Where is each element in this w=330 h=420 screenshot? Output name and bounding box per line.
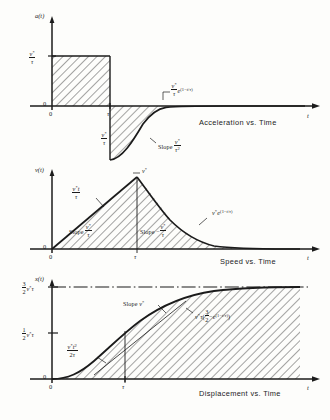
annotation-peak-value: v* (142, 168, 147, 175)
x-axis-name-displacement: t (307, 384, 309, 391)
x-tick-tau-acceleration: τ (107, 110, 109, 117)
annotation-pulse-level: v*τ (29, 50, 35, 65)
y-axis-name-acceleration: a(t) (35, 12, 44, 19)
x-tick-zero-acceleration: 0 (49, 110, 52, 117)
y-axis-arrow (50, 169, 55, 176)
annotation-decay-equation-speed: v*e(1−t/τ) (212, 210, 233, 217)
panel-speed: v(t) 0 0 τ t v* v*tτ v*e(1−t/τ) Slope v*… (0, 165, 330, 275)
x-axis-name-acceleration: t (307, 112, 309, 119)
slope-label-leader (150, 138, 156, 143)
y-tick-zero-speed: 0 (43, 243, 46, 250)
annotation-slope-acceleration: Slope v*τ2 (158, 138, 181, 153)
annotation-ramp-equation: v*tτ (72, 185, 80, 200)
caption-displacement: Displacement vs. Time (199, 389, 281, 398)
ramp-label-leader (96, 198, 104, 207)
annotation-decay-curve: v*τe(1−t/τ) (171, 82, 193, 97)
y-axis-name-displacement: x(t) (35, 275, 44, 282)
y-tick-label-three-halves: 32v*τ (22, 280, 34, 295)
caption-acceleration: Acceleration vs. Time (199, 118, 277, 127)
x-axis-name-speed: t (307, 254, 309, 261)
decay-label-leader (163, 92, 170, 100)
annotation-slope-up: Slope v*τ (69, 223, 92, 238)
caption-speed: Speed vs. Time (220, 257, 276, 266)
y-axis-arrow (50, 16, 55, 23)
y-tick-zero-displacement: 0 (43, 373, 46, 380)
x-tick-zero-displacement: 0 (49, 383, 52, 390)
x-axis-arrow (312, 376, 320, 381)
x-tick-tau-speed: τ (134, 253, 136, 260)
annotation-slope-down: Slope −v*τ (140, 223, 166, 238)
decay-label-leader (199, 218, 207, 225)
panel-acceleration: a(t) 0 0 τ t v*τ v*τ v*τe(1−t/τ) Slope v… (0, 0, 330, 165)
x-tick-tau-displacement: τ (122, 383, 124, 390)
annotation-slope-displacement: Slope v* (123, 301, 144, 308)
y-axis-name-speed: v(t) (35, 166, 44, 173)
y-axis-arrow (50, 279, 55, 286)
x-tick-zero-speed: 0 (49, 253, 52, 260)
pulse-shaded-area (52, 56, 110, 106)
annotation-curve-equation-displacement: v*τ(32−e(1−t/τ)) (195, 308, 230, 323)
y-tick-zero-acceleration: 0 (43, 100, 46, 107)
panel-displacement: x(t) 0 0 τ t 32v*τ 12v*τ Slope v* v*τ(32… (0, 275, 330, 420)
kinematics-figure: a(t) 0 0 τ t v*τ v*τ v*τe(1−t/τ) Slope v… (0, 0, 330, 420)
annotation-parabola-equation: v*t22τ (67, 343, 78, 358)
x-axis-arrow (312, 246, 320, 251)
displacement-plot (0, 275, 330, 420)
x-axis-arrow (312, 103, 320, 108)
annotation-dip-level: v*τ (101, 131, 107, 146)
y-tick-label-one-half: 12v*τ (22, 326, 34, 341)
